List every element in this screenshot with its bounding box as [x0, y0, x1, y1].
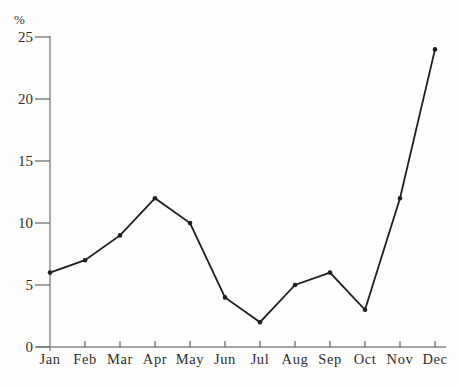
data-point-marker	[83, 258, 88, 263]
x-tick-label: Sep	[318, 351, 342, 367]
data-point-marker	[293, 283, 298, 288]
y-tick-label: 0	[26, 339, 34, 355]
data-point-marker	[433, 47, 438, 52]
data-point-marker	[118, 233, 123, 238]
chart-canvas: 0510152025JanFebMarAprMayJunJulAugSepOct…	[0, 0, 458, 386]
data-point-marker	[363, 308, 368, 313]
x-tick-label: Mar	[107, 351, 133, 367]
x-tick-label: Jan	[39, 351, 60, 367]
y-tick-label: 10	[18, 215, 33, 231]
x-tick-label: Dec	[422, 351, 447, 367]
y-axis-unit-label: %	[14, 12, 25, 28]
data-line	[50, 49, 435, 322]
x-tick-label: Aug	[282, 351, 309, 367]
data-point-marker	[48, 270, 53, 275]
line-chart-figure: % 0510152025JanFebMarAprMayJunJulAugSepO…	[0, 0, 458, 386]
data-point-marker	[188, 221, 193, 226]
y-tick-label: 20	[18, 91, 33, 107]
data-point-marker	[153, 196, 158, 201]
x-tick-label: May	[176, 351, 205, 367]
data-point-marker	[328, 270, 333, 275]
y-tick-label: 5	[26, 277, 34, 293]
y-tick-label: 15	[18, 153, 33, 169]
data-point-marker	[223, 295, 228, 300]
x-tick-label: Jun	[214, 351, 236, 367]
x-tick-label: Jul	[251, 351, 270, 367]
x-tick-label: Feb	[73, 351, 97, 367]
x-tick-label: Oct	[354, 351, 377, 367]
x-tick-label: Nov	[387, 351, 414, 367]
x-tick-label: Apr	[143, 351, 167, 367]
data-point-marker	[258, 320, 263, 325]
y-tick-label: 25	[18, 29, 33, 45]
data-point-marker	[398, 196, 403, 201]
